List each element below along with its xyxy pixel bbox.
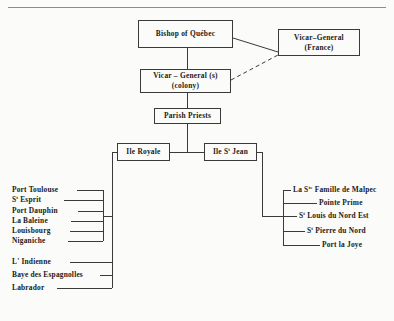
edge-bishop-to-vicar-france bbox=[233, 38, 278, 52]
node-vicar-france-line2: (France) bbox=[304, 43, 333, 53]
node-parish-priests-label: Parish Priests bbox=[164, 111, 211, 121]
list-item-right-3[interactable]: St Pierre du Nord bbox=[307, 227, 366, 234]
list-item-left-7[interactable]: Baye des Espagnolles bbox=[12, 271, 83, 278]
list-item-right-2[interactable]: St Louis du Nord Est bbox=[299, 212, 369, 219]
edge-vicar-colony-to-vicar-france bbox=[231, 55, 278, 80]
node-ile-royale[interactable]: Ile Royale bbox=[117, 143, 170, 161]
list-item-left-6[interactable]: L' Indienne bbox=[12, 258, 51, 265]
node-bishop-of-quebec[interactable]: Bishop of Québec bbox=[138, 20, 233, 48]
list-item-left-0[interactable]: Port Toulouse bbox=[12, 186, 58, 193]
list-item-left-3[interactable]: La Baleine bbox=[12, 217, 48, 224]
node-vicar-france-line1: Vicar–General bbox=[294, 33, 344, 43]
diagram-canvas: Bishop of Québec Vicar – General (s) (co… bbox=[0, 0, 394, 321]
list-item-left-1[interactable]: St Esprit bbox=[12, 196, 41, 203]
list-item-left-2[interactable]: Port Dauphin bbox=[12, 207, 58, 214]
list-item-left-8[interactable]: Labrador bbox=[12, 284, 44, 291]
list-item-right-1[interactable]: Pointe Prime bbox=[319, 199, 363, 206]
edge-ilestjean-outer-bus bbox=[257, 152, 262, 216]
node-ile-st-jean[interactable]: Ile St Jean bbox=[204, 143, 257, 161]
node-parish-priests[interactable]: Parish Priests bbox=[154, 108, 221, 124]
list-item-left-5[interactable]: Niganiche bbox=[12, 237, 45, 244]
list-item-right-0[interactable]: La Ste Famille de Malpec bbox=[293, 186, 376, 193]
edge-ileroyale-outer-bus bbox=[112, 152, 117, 288]
node-bishop-label: Bishop of Québec bbox=[156, 29, 215, 39]
node-vicar-colony-line1: Vicar – General (s) bbox=[153, 71, 217, 81]
list-item-right-4[interactable]: Port la Joye bbox=[322, 241, 362, 248]
node-vicar-colony-line2: (colony) bbox=[172, 81, 199, 91]
list-item-left-4[interactable]: Louisbourg bbox=[12, 227, 51, 234]
node-vicar-general-france[interactable]: Vicar–General (France) bbox=[278, 29, 360, 56]
node-vicar-general-colony[interactable]: Vicar – General (s) (colony) bbox=[140, 69, 231, 93]
node-ile-royale-label: Ile Royale bbox=[126, 147, 160, 157]
node-ile-st-jean-label: Ile St Jean bbox=[213, 147, 248, 157]
